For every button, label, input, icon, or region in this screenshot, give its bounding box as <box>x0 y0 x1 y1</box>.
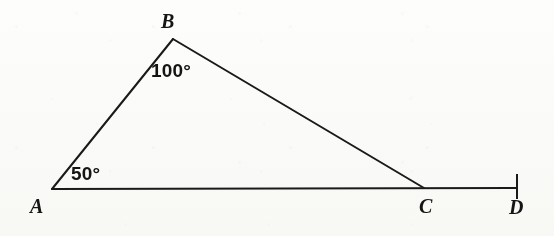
geometry-diagram: A B C D 100° 50° <box>0 0 554 236</box>
triangle-figure <box>0 0 554 236</box>
angle-measure-a: 50° <box>71 164 100 183</box>
vertex-label-b: B <box>161 11 174 31</box>
vertex-label-d: D <box>509 197 523 217</box>
vertex-label-c: C <box>419 196 432 216</box>
segment-bc <box>173 39 424 188</box>
segment-ad-baseline <box>52 188 517 189</box>
angle-measure-b: 100° <box>151 61 191 80</box>
vertex-label-a: A <box>30 196 43 216</box>
